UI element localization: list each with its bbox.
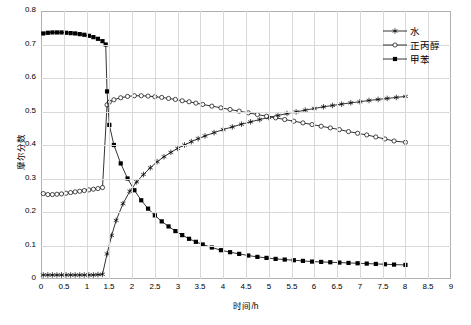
- legend-marker-circle-icon: [382, 38, 408, 52]
- x-tick-label: 9: [431, 282, 471, 291]
- x-axis-title: 时间/h: [186, 299, 306, 311]
- gridline-horizontal: [41, 246, 451, 247]
- y-tick-label: 0.8: [3, 5, 36, 14]
- gridline-horizontal: [41, 112, 451, 113]
- legend-marker-star-icon: [382, 24, 408, 38]
- y-tick-label: 0.3: [3, 173, 36, 182]
- y-tick-label: 0.6: [3, 72, 36, 81]
- legend-label: 正丙醇: [410, 38, 440, 52]
- chart-legend: 水正丙醇甲苯: [382, 24, 440, 66]
- y-tick-label: 0.5: [3, 106, 36, 115]
- y-tick-label: 0.2: [3, 206, 36, 215]
- y-tick-label: 0.1: [3, 240, 36, 249]
- y-axis-title: 摩尔分数: [14, 134, 26, 170]
- gridline-horizontal: [41, 78, 451, 79]
- gridline-horizontal: [41, 179, 451, 180]
- series-2: [41, 30, 407, 267]
- legend-item: 甲苯: [382, 52, 440, 66]
- legend-label: 水: [410, 24, 420, 38]
- chart-container: 00.511.522.533.544.555.566.577.588.5900.…: [0, 0, 471, 325]
- legend-item: 正丙醇: [382, 38, 440, 52]
- series-0: [41, 94, 408, 278]
- y-tick-label: 0.7: [3, 39, 36, 48]
- legend-label: 甲苯: [410, 52, 430, 66]
- legend-marker-square-icon: [382, 52, 408, 66]
- legend-item: 水: [382, 24, 440, 38]
- gridline-horizontal: [41, 212, 451, 213]
- y-tick-label: 0: [3, 273, 36, 282]
- gridline-horizontal: [41, 145, 451, 146]
